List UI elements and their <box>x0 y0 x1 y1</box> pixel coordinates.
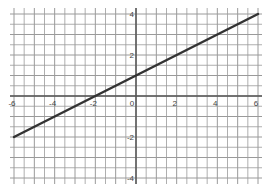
x-tick-label: -4 <box>49 99 57 108</box>
y-tick-label: 2 <box>130 51 135 60</box>
x-tick-label: 6 <box>254 99 259 108</box>
x-tick-label: 4 <box>213 99 218 108</box>
y-tick-label: -2 <box>127 133 135 142</box>
y-tick-label: -4 <box>127 174 135 183</box>
x-tick-label: -2 <box>90 99 98 108</box>
x-tick-label: 0 <box>130 99 135 108</box>
x-tick-label: -6 <box>8 99 16 108</box>
line-chart: -6-4-2024642-2-4 <box>0 0 266 186</box>
y-tick-label: 4 <box>130 10 135 19</box>
x-tick-label: 2 <box>172 99 177 108</box>
